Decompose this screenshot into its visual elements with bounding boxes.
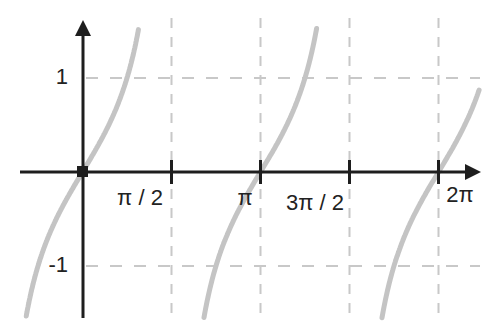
x-tick-label-3pi-half: 3π / 2 (286, 190, 344, 215)
x-axis-arrow-icon (465, 164, 481, 180)
y-axis-arrow-icon (75, 20, 91, 36)
y-tick-label-minus-1: -1 (48, 252, 68, 277)
x-tick-label-2pi: 2π (446, 182, 473, 207)
grid-lines (86, 18, 480, 320)
tangent-chart: π / 2 π 3π / 2 2π 1 -1 (0, 0, 493, 324)
x-tick-label-pi: π (237, 185, 252, 210)
x-tick-label-pi-half: π / 2 (117, 185, 163, 210)
y-tick-label-1: 1 (56, 64, 68, 89)
origin-marker (77, 166, 88, 177)
axes (20, 20, 481, 318)
